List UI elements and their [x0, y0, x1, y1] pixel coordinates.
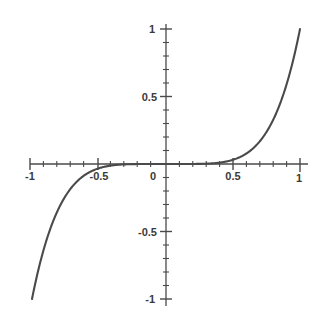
x-axis-label-neg-one: -1 — [25, 170, 35, 182]
x-axis-label-neg-half: -0.5 — [90, 170, 109, 182]
function-plot-figure: -1 -0.5 0 0.5 1 1 0.5 -0.5 -1 — [0, 0, 315, 322]
y-axis-label-neg-one: -1 — [145, 293, 155, 305]
y-axis-label-half: 0.5 — [142, 91, 157, 103]
y-axis-label-one: 1 — [149, 23, 155, 35]
plot-canvas: -1 -0.5 0 0.5 1 1 0.5 -0.5 -1 — [0, 0, 315, 322]
x-axis-label-origin: 0 — [150, 170, 156, 182]
y-axis-label-neg-half: -0.5 — [138, 226, 157, 238]
x-axis-label-one: 1 — [296, 172, 302, 184]
x-axis-label-half: 0.5 — [225, 170, 240, 182]
